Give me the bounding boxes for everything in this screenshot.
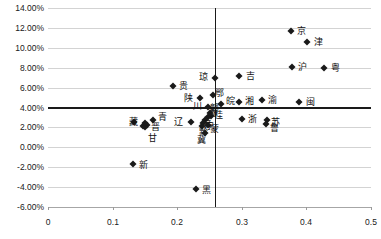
data-point-label: 黑 — [202, 186, 211, 195]
y-axis-tick-label: 0.00% — [0, 143, 44, 152]
y-axis-tick-label: 14.00% — [0, 4, 44, 13]
data-point-label: 青 — [158, 113, 167, 122]
x-axis-tick-label: 0.5 — [356, 218, 381, 227]
data-point-label: 藏 — [129, 118, 138, 127]
data-point-label: 浙 — [248, 115, 257, 124]
y-axis-tick-label: 10.00% — [0, 44, 44, 53]
data-point-label: 津 — [314, 37, 323, 46]
gridline — [48, 147, 371, 148]
data-point-marker — [211, 74, 218, 81]
data-point-label: 新 — [139, 161, 148, 170]
data-point-label: 甘 — [148, 134, 157, 143]
data-point-label: 粤 — [331, 63, 340, 72]
data-point-label: 贵 — [179, 81, 188, 90]
x-axis-tick-mark — [371, 207, 372, 210]
gridline — [48, 28, 371, 29]
x-axis-tick-label: 0.4 — [291, 218, 321, 227]
x-axis-tick-mark — [306, 207, 307, 210]
data-point-marker — [236, 72, 243, 79]
data-point-marker — [321, 64, 328, 71]
data-point-label: 渝 — [268, 95, 277, 104]
y-axis-tick-label: -6.00% — [0, 203, 44, 212]
x-axis-tick-mark — [177, 207, 178, 210]
data-point-marker — [303, 38, 310, 45]
y-axis-tick-label: -4.00% — [0, 183, 44, 192]
data-point-label: 湘 — [245, 96, 254, 105]
gridline — [48, 48, 371, 49]
y-axis-tick-label: 4.00% — [0, 104, 44, 113]
x-axis-tick-label: 0 — [33, 218, 63, 227]
data-point-label: 琼 — [199, 72, 208, 81]
data-point-label: 闽 — [306, 97, 315, 106]
data-point-label: 冀 — [197, 136, 206, 145]
data-point-label: 蒙 — [210, 125, 219, 134]
gridline — [48, 8, 371, 9]
data-point-label: 晋 — [151, 123, 160, 132]
data-point-marker — [296, 98, 303, 105]
data-point-marker — [188, 119, 195, 126]
y-axis-tick-label: 12.00% — [0, 24, 44, 33]
data-point-label: 沪 — [298, 62, 307, 71]
scatter-chart: 14.00%12.00%10.00%8.00%6.00%4.00%2.00%0.… — [0, 0, 381, 239]
x-axis-line — [48, 207, 371, 208]
x-axis-tick-label: 0.1 — [98, 218, 128, 227]
x-axis-tick-mark — [242, 207, 243, 210]
data-point-label: 皖 — [226, 96, 235, 105]
data-point-marker — [288, 63, 295, 70]
gridline — [48, 88, 371, 89]
x-axis-tick-mark — [113, 207, 114, 210]
data-point-marker — [236, 98, 243, 105]
y-axis-tick-label: 8.00% — [0, 64, 44, 73]
y-axis-tick-label: 2.00% — [0, 123, 44, 132]
x-axis-tick-label: 0.3 — [227, 218, 257, 227]
y-axis-tick-label: 6.00% — [0, 84, 44, 93]
data-point-label: 赣 — [210, 104, 219, 113]
x-axis-tick-mark — [48, 207, 49, 210]
x-axis-tick-label: 0.2 — [162, 218, 192, 227]
gridline — [48, 167, 371, 168]
data-point-label: 川 — [193, 101, 202, 110]
data-point-label: 吉 — [246, 71, 255, 80]
data-point-label: 鲁 — [270, 124, 279, 133]
data-point-label: 京 — [297, 26, 306, 35]
data-point-marker — [258, 96, 265, 103]
y-axis-tick-label: -2.00% — [0, 163, 44, 172]
data-point-label: 鄂 — [215, 88, 224, 97]
data-point-label: 辽 — [174, 118, 183, 127]
data-point-marker — [238, 116, 245, 123]
